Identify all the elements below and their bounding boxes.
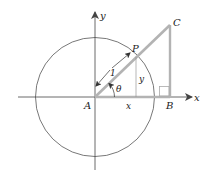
angle-arc [109, 84, 115, 98]
unit-circle-diagram: y x A B C P 1 θ x y [0, 0, 204, 178]
right-angle-marker [160, 87, 170, 97]
hypotenuse-AC [95, 25, 170, 97]
label-P: P [131, 43, 139, 54]
label-B: B [165, 100, 173, 111]
radius-label: 1 [110, 68, 116, 78]
vertical-leg-label: y [138, 74, 145, 84]
horizontal-leg-label: x [126, 101, 131, 111]
label-C: C [173, 17, 181, 28]
label-A: A [83, 100, 91, 111]
angle-label: θ [116, 84, 122, 94]
x-axis-label: x [194, 92, 200, 103]
y-axis-label: y [99, 10, 106, 21]
